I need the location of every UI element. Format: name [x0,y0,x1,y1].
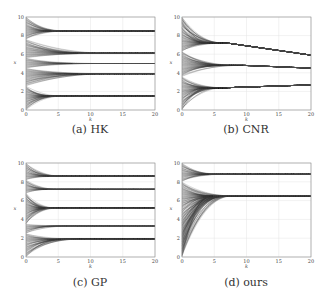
svg-text:10: 10 [18,14,24,20]
svg-text:20: 20 [308,111,314,117]
svg-text:15: 15 [276,111,282,117]
svg-text:2: 2 [21,88,24,94]
svg-text:15: 15 [120,258,126,264]
svg-text:5: 5 [57,111,60,117]
svg-text:0: 0 [180,111,183,117]
svg-text:0: 0 [24,258,27,264]
svg-text:10: 10 [174,160,180,166]
x-axis-label: k [89,263,92,269]
svg-text:4: 4 [177,70,180,76]
figure-canvas: 051015200246810kx051015200246810kx051015… [0,0,325,307]
svg-text:6: 6 [177,51,180,57]
svg-text:2: 2 [177,235,180,241]
svg-text:2: 2 [21,235,24,241]
svg-text:0: 0 [177,254,180,260]
svg-text:10: 10 [18,160,24,166]
svg-text:6: 6 [21,197,24,203]
svg-text:0: 0 [177,107,180,113]
svg-text:2: 2 [177,88,180,94]
svg-text:8: 8 [21,179,24,185]
y-axis-label: x [14,59,17,65]
caption-c: (c) GP [20,276,160,289]
x-axis-label: k [245,116,248,122]
svg-text:5: 5 [57,258,60,264]
svg-text:0: 0 [21,254,24,260]
y-axis-label: x [170,205,173,211]
svg-text:20: 20 [152,111,158,117]
panel-c: 051015200246810kx [14,160,159,269]
caption-b: (b) CNR [176,123,316,136]
y-axis-label: x [170,59,173,65]
x-axis-label: k [89,116,92,122]
svg-text:20: 20 [308,258,314,264]
svg-text:6: 6 [177,197,180,203]
svg-text:4: 4 [21,70,24,76]
svg-text:10: 10 [174,14,180,20]
svg-text:8: 8 [177,179,180,185]
svg-text:8: 8 [21,32,24,38]
svg-text:5: 5 [213,111,216,117]
consensus-line [227,43,311,55]
svg-text:8: 8 [177,32,180,38]
svg-text:15: 15 [276,258,282,264]
caption-d: (d) ours [176,276,316,289]
panel-b: 051015200246810kx [170,14,315,122]
svg-text:6: 6 [21,51,24,57]
x-axis-label: k [245,263,248,269]
panel-d: 051015200246810kx [170,160,315,269]
panel-a: 051015200246810kx [14,14,159,122]
svg-text:4: 4 [177,216,180,222]
svg-text:0: 0 [24,111,27,117]
y-axis-label: x [14,205,17,211]
svg-text:0: 0 [21,107,24,113]
svg-text:4: 4 [21,216,24,222]
consensus-line [227,85,311,88]
grid [182,163,311,257]
consensus-line [243,65,311,68]
caption-a: (a) HK [20,123,160,136]
svg-text:0: 0 [180,258,183,264]
svg-text:20: 20 [152,258,158,264]
svg-text:15: 15 [120,111,126,117]
svg-text:5: 5 [213,258,216,264]
